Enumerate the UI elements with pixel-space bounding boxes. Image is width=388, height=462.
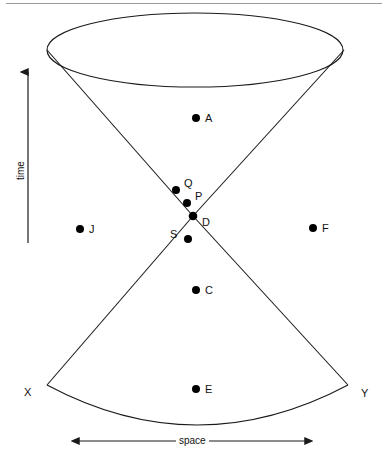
event-label-J: J xyxy=(89,224,95,235)
future-cone-right-edge xyxy=(193,50,344,216)
event-label-D: D xyxy=(202,217,210,228)
future-cone-rim-ellipse xyxy=(47,13,343,87)
event-dot-S xyxy=(184,235,192,243)
event-dot-Q xyxy=(172,186,180,194)
event-label-Q: Q xyxy=(184,178,193,189)
corner-label-x: X xyxy=(24,387,31,398)
diagram-canvas xyxy=(0,0,388,462)
event-label-A: A xyxy=(205,113,212,124)
past-cone-left-edge xyxy=(47,216,193,385)
event-label-C: C xyxy=(205,285,213,296)
event-dot-P xyxy=(183,199,191,207)
past-cone-right-edge xyxy=(193,216,348,385)
event-dot-F xyxy=(309,224,317,232)
time-axis-label: time xyxy=(16,161,26,180)
event-dot-C xyxy=(192,286,200,294)
space-axis-label: space xyxy=(176,436,209,446)
future-cone-left-edge xyxy=(47,50,193,216)
event-dot-A xyxy=(192,114,200,122)
event-dot-D xyxy=(189,212,198,221)
event-label-F: F xyxy=(322,223,329,234)
event-label-P: P xyxy=(195,191,202,202)
lightcone-figure: A Q P D S C E J F X Y time space xyxy=(0,0,388,462)
corner-label-y: Y xyxy=(361,388,368,399)
event-dot-J xyxy=(76,225,84,233)
event-dot-E xyxy=(192,385,200,393)
event-label-S: S xyxy=(170,229,177,240)
event-label-E: E xyxy=(205,384,212,395)
